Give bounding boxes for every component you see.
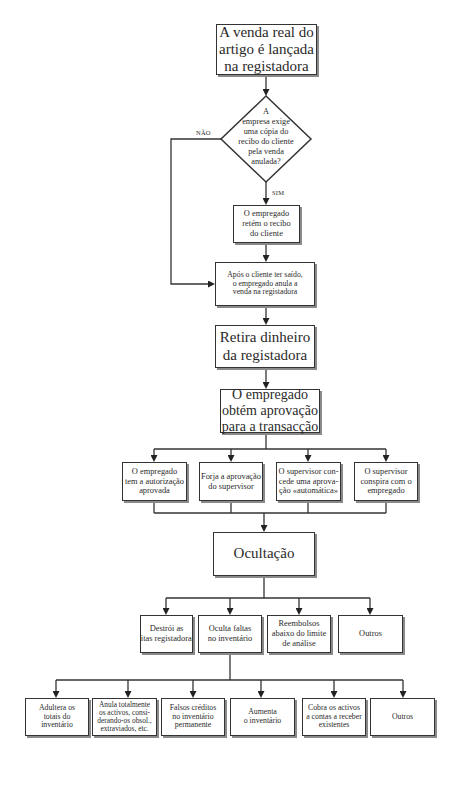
box-line: Ocultação (234, 545, 295, 562)
no-label: NÃO (196, 129, 211, 136)
concealment-method-box: Reembolsos abaixo do limite de análise (267, 615, 331, 653)
approval-method-box: O empregado tem a autorização aprovada (122, 462, 187, 501)
box-line: existentes (306, 721, 362, 730)
box-line: aprovada (125, 486, 184, 496)
box-line: Destrói as (140, 624, 193, 634)
box-line: ção «automática» (278, 486, 338, 496)
decision-line: recibo do cliente (221, 137, 311, 147)
box-line: O supervisor (360, 467, 411, 477)
box-line: no inventário (208, 634, 252, 644)
keeps-receipt-box: O empregado retém o recibo do cliente (233, 205, 300, 243)
decision-diamond: A empresa exige uma cópia do recibo do c… (221, 107, 311, 167)
decision-line: uma cópia do (221, 127, 311, 137)
box-line: permanente (170, 721, 217, 730)
approval-method-box: O supervisor conspira com o empregado (354, 462, 418, 501)
box-line: Forja a aprovação (201, 472, 261, 482)
approval-method-box: Forja a aprovação do supervisor (199, 462, 263, 501)
approval-method-box: O supervisor con- cede uma aprova- ção «… (276, 462, 341, 501)
inventory-method-box: Cobra os activos a contas a receber exis… (302, 698, 366, 736)
box-line: abaixo do limite (272, 629, 326, 639)
box-line: Outros (359, 629, 382, 639)
box-line: O empregado (125, 467, 184, 477)
yes-label: SIM (272, 189, 284, 196)
start-box: A venda real do artigo é lançada na regi… (216, 24, 317, 75)
box-line: da registadora (220, 347, 310, 364)
decision-line: A (221, 107, 311, 117)
decision-line: empresa exige (221, 117, 311, 127)
box-line: o inventário (244, 717, 281, 726)
inventory-method-box: Falsos créditos no inventário permanente (161, 698, 225, 736)
inventory-method-box: Outros (370, 698, 435, 736)
box-line: fitas registadoras (140, 634, 193, 644)
box-line: Outros (392, 713, 413, 722)
removes-cash-box: Retira dinheiro da registadora (215, 325, 315, 368)
box-line: do supervisor (201, 482, 261, 492)
concealment-box: Ocultação (213, 532, 315, 576)
box-line: venda na registadora (227, 288, 303, 297)
box-line: O empregado (242, 209, 290, 219)
box-line: extraviados, etc. (97, 725, 151, 733)
box-line: tem a autorização (125, 477, 184, 487)
inventory-method-box: Adultera os totais do inventário (25, 698, 89, 736)
start-line: na registadora (219, 58, 314, 75)
box-line: obtém aprovação (222, 403, 318, 419)
box-line: do cliente (242, 229, 290, 239)
concealment-method-box: Destrói as fitas registadoras (140, 615, 193, 653)
box-line: empregado (360, 486, 411, 496)
box-line: O empregado (222, 387, 318, 403)
inventory-method-box: Aumenta o inventário (230, 698, 295, 736)
box-line: Oculta faltas (208, 624, 252, 634)
box-line: conspira com o (360, 477, 411, 487)
box-line: de análise (272, 639, 326, 649)
box-line: retém o recibo (242, 219, 290, 229)
box-line: Reembolsos (272, 619, 326, 629)
box-line: para a transacção (222, 419, 318, 435)
box-line: inventário (39, 721, 75, 730)
gets-approval-box: O empregado obtém aprovação para a trans… (220, 389, 320, 433)
concealment-method-box: Outros (338, 615, 403, 653)
concealment-method-box: Oculta faltas no inventário (198, 615, 262, 653)
start-line: A venda real do (219, 24, 314, 41)
start-line: artigo é lançada (219, 41, 314, 58)
decision-line: pela venda (221, 147, 311, 157)
box-line: O supervisor con- (278, 467, 338, 477)
box-line: Retira dinheiro (220, 329, 310, 346)
inventory-method-box: Anula totalmente os activos, consi- dera… (92, 698, 157, 736)
decision-line: anulada? (221, 157, 311, 167)
box-line: cede uma aprova- (278, 477, 338, 487)
voids-sale-box: Após o cliente ter saído, o empregado an… (215, 262, 315, 306)
